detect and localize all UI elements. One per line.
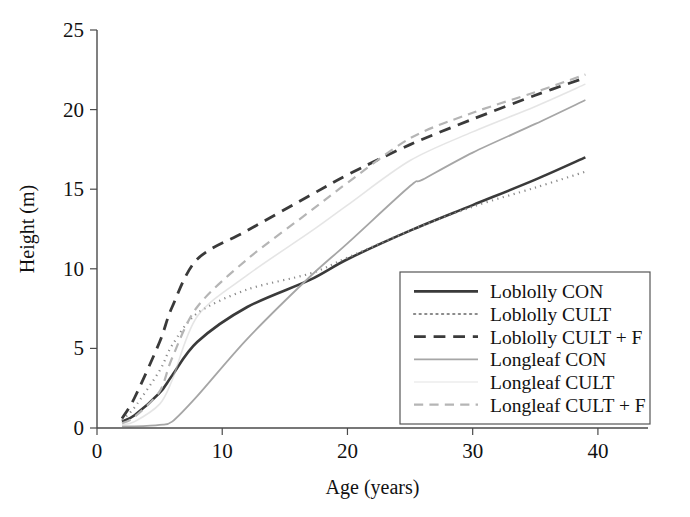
x-tick-label: 40: [587, 439, 608, 463]
y-tick-label: 25: [63, 18, 84, 42]
legend-label: Longleaf CULT: [490, 372, 614, 393]
x-tick-label: 20: [337, 439, 358, 463]
y-axis-title: Height (m): [16, 185, 39, 273]
legend-label: Longleaf CULT + F: [490, 395, 646, 416]
y-tick-label: 10: [63, 257, 84, 281]
x-tick-label: 10: [212, 439, 233, 463]
legend-label: Loblolly CON: [490, 281, 603, 302]
line-chart: 0510152025010203040 Age (years) Height (…: [0, 0, 690, 517]
legend-label: Longleaf CON: [490, 349, 606, 370]
legend-label: Loblolly CULT: [490, 304, 611, 325]
x-tick-label: 0: [92, 439, 103, 463]
y-tick-label: 5: [74, 336, 85, 360]
y-tick-label: 0: [74, 416, 85, 440]
chart-legend: Loblolly CONLoblolly CULTLoblolly CULT +…: [400, 272, 650, 424]
x-axis-title: Age (years): [326, 476, 420, 499]
x-tick-label: 30: [462, 439, 483, 463]
chart-container: 0510152025010203040 Age (years) Height (…: [0, 0, 690, 517]
legend-label: Loblolly CULT + F: [490, 327, 643, 348]
y-tick-label: 15: [63, 177, 84, 201]
y-tick-label: 20: [63, 98, 84, 122]
